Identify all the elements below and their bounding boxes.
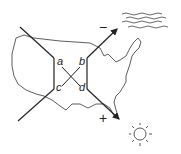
minus-sign: − bbox=[99, 20, 107, 34]
water-waves-icon bbox=[122, 13, 168, 28]
diagram-canvas bbox=[0, 0, 181, 154]
label-c: c bbox=[56, 82, 62, 93]
label-a: a bbox=[57, 56, 63, 67]
us-map-outline bbox=[12, 35, 141, 116]
plus-sign: + bbox=[99, 111, 107, 125]
upper-left-diagonal bbox=[20, 27, 54, 58]
label-b: b bbox=[79, 56, 85, 67]
sun-icon bbox=[129, 123, 152, 146]
label-d: d bbox=[79, 82, 85, 93]
diagram: a b c d − + bbox=[0, 0, 181, 154]
